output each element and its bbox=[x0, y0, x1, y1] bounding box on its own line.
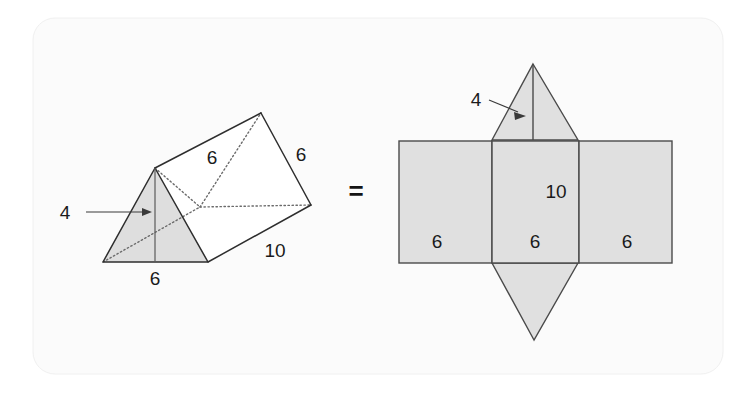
net-label-triangle-height: 4 bbox=[471, 89, 482, 110]
net-label-rect-right-width: 6 bbox=[622, 231, 633, 252]
prism-label-base: 6 bbox=[150, 268, 161, 289]
geometry-figure: 4 6 6 10 6 = bbox=[0, 0, 754, 396]
prism-label-height: 4 bbox=[60, 202, 71, 223]
net-label-rect-height: 10 bbox=[545, 181, 566, 202]
net-label-rect-left-width: 6 bbox=[432, 231, 443, 252]
prism-label-slant-top: 6 bbox=[207, 147, 218, 168]
prism-label-length: 10 bbox=[264, 240, 285, 261]
net-label-rect-middle-width: 6 bbox=[530, 231, 541, 252]
equals-sign: = bbox=[348, 176, 363, 206]
prism-label-slant-right: 6 bbox=[296, 144, 307, 165]
figure-root: 4 6 6 10 6 = bbox=[0, 0, 754, 396]
net-rect-left bbox=[399, 141, 492, 263]
